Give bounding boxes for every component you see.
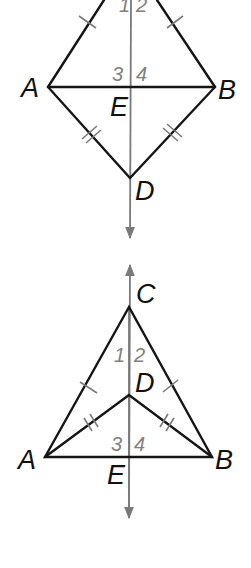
label-B: B — [218, 75, 236, 105]
label-C: C — [136, 279, 156, 309]
angle-1: 1 — [114, 344, 125, 366]
label-B: B — [215, 445, 233, 475]
angle-2: 2 — [133, 344, 145, 366]
angle-3: 3 — [111, 433, 122, 455]
label-D: D — [135, 368, 155, 398]
angle-4: 4 — [134, 433, 145, 455]
geometry-diagram: A B E D 1 2 3 4 C D A B E 1 2 3 4 — [0, 0, 251, 568]
double-tick-AD-2 — [90, 414, 98, 427]
figure-dart: C D A B E 1 2 3 4 — [16, 265, 233, 518]
label-E: E — [107, 460, 126, 490]
figure-kite: A B E D 1 2 3 4 — [19, 0, 236, 238]
label-E: E — [110, 92, 129, 122]
angle-4: 4 — [136, 63, 147, 85]
label-A: A — [16, 445, 36, 475]
label-A: A — [19, 73, 39, 103]
label-D: D — [135, 176, 155, 206]
perpendicular-bisector-line — [130, 0, 131, 238]
angle-3: 3 — [112, 63, 123, 85]
angle-1: 1 — [119, 0, 130, 16]
angle-2: 2 — [135, 0, 147, 16]
